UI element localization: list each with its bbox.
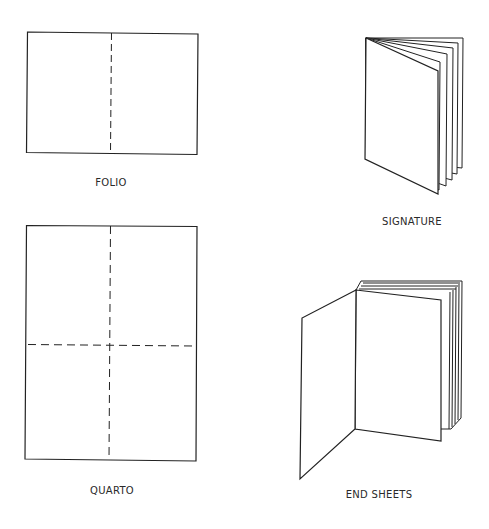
signature-label: SIGNATURE	[382, 216, 442, 227]
folio-sheet-outline	[27, 32, 199, 155]
folio-label: FOLIO	[95, 177, 127, 188]
quarto-figure	[25, 226, 197, 462]
end-sheet-right-page	[355, 290, 441, 441]
bookbinding-diagram: FOLIO SIGNATURE QUARTO END SHEETS	[0, 0, 489, 529]
signature-figure	[365, 38, 463, 194]
quarto-label: QUARTO	[90, 485, 134, 496]
folio-figure	[27, 32, 199, 155]
quarto-sheet-outline	[25, 226, 197, 462]
end-sheets-label: END SHEETS	[346, 489, 413, 500]
end-sheets-figure	[300, 281, 462, 479]
diagram-drawing	[0, 0, 489, 529]
end-sheet-left-flap	[300, 290, 356, 479]
